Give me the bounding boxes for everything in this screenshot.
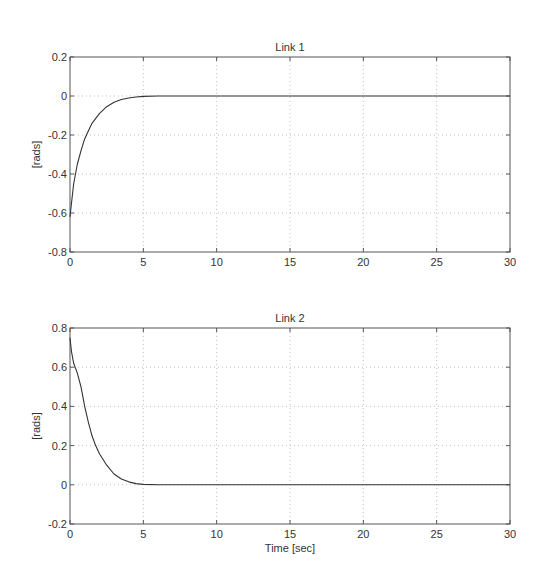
y-tick-label: 0.2 [52,440,67,452]
series-line [70,338,510,485]
x-tick-label: 10 [211,256,223,268]
x-tick-label: 30 [504,528,516,540]
x-tick-label: 5 [140,256,146,268]
subplot-2: 051015202530-0.200.20.40.60.8Link 2[rads… [30,312,516,554]
x-tick-label: 25 [431,528,443,540]
x-tick-label: 10 [211,528,223,540]
y-tick-label: -0.8 [48,246,67,258]
x-tick-label: 0 [67,528,73,540]
x-tick-label: 15 [284,528,296,540]
y-tick-label: 0 [61,90,67,102]
figure: 051015202530-0.8-0.6-0.4-0.200.2Link 1[r… [0,0,538,575]
y-tick-label: 0.4 [52,400,67,412]
subplot-1: 051015202530-0.8-0.6-0.4-0.200.2Link 1[r… [30,41,516,268]
axes-frame [70,328,510,524]
y-axis-label: [rads] [30,412,42,440]
series-line [70,96,510,217]
y-axis-label: [rads] [30,141,42,169]
x-tick-label: 20 [357,256,369,268]
y-tick-label: 0.8 [52,322,67,334]
y-tick-label: -0.6 [48,207,67,219]
y-tick-label: 0.6 [52,361,67,373]
x-tick-label: 0 [67,256,73,268]
y-tick-label: 0 [61,479,67,491]
x-axis-label: Time [sec] [265,542,315,554]
chart-title: Link 1 [275,41,304,53]
y-tick-label: -0.4 [48,168,67,180]
chart-title: Link 2 [275,312,304,324]
axes-frame [70,57,510,252]
grid [70,328,510,524]
x-tick-label: 15 [284,256,296,268]
x-tick-label: 30 [504,256,516,268]
x-tick-label: 20 [357,528,369,540]
x-tick-label: 5 [140,528,146,540]
y-tick-label: -0.2 [48,129,67,141]
x-tick-label: 25 [431,256,443,268]
grid [70,57,510,252]
y-tick-label: -0.2 [48,518,67,530]
y-tick-label: 0.2 [52,51,67,63]
